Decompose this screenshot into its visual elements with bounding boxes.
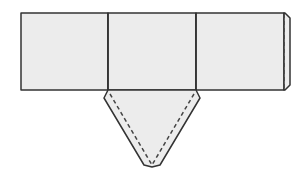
- glue-tab-right: [284, 13, 290, 90]
- triangle-flap-bottom: [104, 90, 200, 167]
- net-diagram: [0, 0, 304, 176]
- face-right: [196, 13, 284, 90]
- faces-group: [21, 13, 284, 90]
- face-middle: [108, 13, 196, 90]
- face-left: [21, 13, 108, 90]
